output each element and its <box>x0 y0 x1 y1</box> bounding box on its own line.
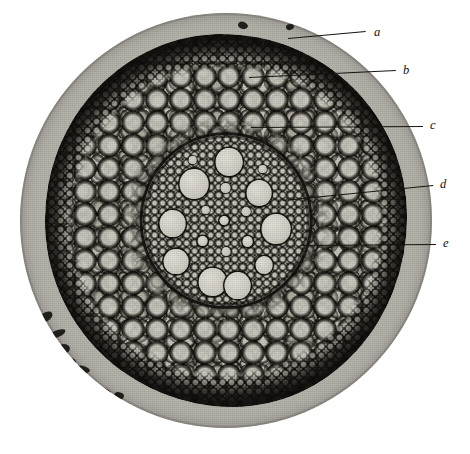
figure-label-e: e <box>443 237 449 250</box>
stain-artifact <box>62 376 71 382</box>
figure-label-c: c <box>430 119 436 132</box>
microscope-field <box>20 13 432 428</box>
endodermis-ring <box>143 135 310 307</box>
root-section <box>45 34 408 408</box>
figure-photomicrograph: abcde <box>0 0 470 454</box>
figure-label-b: b <box>403 64 409 77</box>
stele <box>143 135 310 307</box>
figure-label-d: d <box>440 178 446 191</box>
stain-artifact <box>65 357 76 366</box>
figure-label-a: a <box>374 26 380 39</box>
